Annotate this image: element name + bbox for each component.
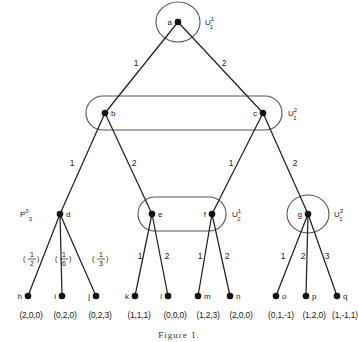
paren-close: ) [37, 255, 39, 263]
chance-probability-1: (12) [23, 251, 39, 267]
tree-node-f [209, 211, 216, 218]
node-label-i: i [54, 292, 56, 301]
edge-label-f-m: 1 [198, 251, 203, 261]
node-label-n: n [236, 292, 240, 301]
node-label-q: q [343, 292, 347, 301]
tree-node-i [59, 293, 66, 300]
edge-label-e-k: 1 [138, 251, 143, 261]
node-label-a: a [168, 18, 173, 27]
edge-label-e-l: 2 [165, 251, 170, 261]
payoff-i: (0,2,0) [53, 310, 77, 320]
chance-probability-2: (16) [55, 251, 71, 267]
tree-edge-c-f [212, 113, 263, 214]
payoff-p: (1,2,0) [302, 310, 326, 320]
figure-caption: Figure 1. [158, 330, 200, 340]
edge-label-b-d: 1 [70, 158, 75, 168]
node-label-l: l [160, 292, 162, 301]
fraction-denominator: 3 [99, 260, 103, 267]
payoff-o: (0,1,-1) [268, 310, 294, 320]
paren-close: ) [106, 255, 108, 263]
edge-label-g-p: 2 [301, 251, 306, 261]
chance-probability-3: (13) [92, 251, 108, 267]
tree-node-o [273, 293, 280, 300]
tree-node-k [132, 293, 139, 300]
tree-node-g [305, 211, 312, 218]
edge-label-c-f: 1 [229, 158, 234, 168]
tree-node-n [227, 293, 234, 300]
tree-edge-c-g [263, 113, 308, 214]
node-label-e: e [158, 210, 163, 219]
tree-edge-a-b [105, 22, 178, 113]
tree-edge-g-p [306, 214, 308, 296]
tree-node-m [195, 293, 202, 300]
payoff-j: (0,2,3) [88, 310, 112, 320]
payoff-h: (2,0,0) [19, 310, 43, 320]
chance-player-label: P03 [20, 208, 33, 222]
edge-label-f-n: 2 [225, 251, 230, 261]
tree-edge-g-q [308, 214, 337, 296]
node-label-d: d [66, 210, 70, 219]
tree-edge-b-e [105, 113, 152, 214]
information-set-label: U31 [334, 208, 344, 222]
paren-open: ( [55, 255, 58, 263]
node-label-b: b [111, 109, 116, 118]
tree-node-e [149, 211, 156, 218]
fraction-numerator: 1 [30, 251, 34, 258]
edge-label-b-e: 2 [132, 158, 137, 168]
tree-edge-b-d [60, 113, 105, 214]
tree-node-a [175, 19, 182, 26]
tree-node-c [260, 110, 267, 117]
payoff-l: (0,0,0) [163, 310, 187, 320]
information-set-label: U21 [288, 107, 298, 121]
tree-edge-a-c [178, 22, 263, 113]
edge-label-a-b: 1 [134, 58, 139, 68]
fraction-denominator: 6 [62, 260, 66, 267]
tree-node-q [334, 293, 341, 300]
edge-label-g-o: 1 [281, 251, 286, 261]
node-label-m: m [204, 292, 211, 301]
fraction-numerator: 1 [99, 251, 103, 258]
node-label-f: f [204, 210, 207, 219]
node-label-j: j [87, 292, 90, 301]
tree-node-b [102, 110, 109, 117]
node-label-p: p [312, 292, 317, 301]
tree-node-l [165, 293, 172, 300]
paren-open: ( [92, 255, 95, 263]
tree-node-d [57, 211, 64, 218]
payoff-n: (2,0,0) [229, 310, 253, 320]
paren-close: ) [69, 255, 71, 263]
payoff-k: (1,1,1) [127, 310, 151, 320]
node-label-g: g [298, 210, 302, 219]
node-label-c: c [253, 109, 257, 118]
payoff-q: (1,-1,1) [332, 310, 358, 320]
information-set-label: U12 [232, 208, 242, 222]
edge-label-a-c: 2 [222, 58, 227, 68]
tree-node-h [25, 293, 32, 300]
node-label-h: h [18, 292, 22, 301]
information-set-label: U11 [205, 16, 215, 30]
tree-node-j [93, 293, 100, 300]
edge-label-c-g: 2 [293, 158, 298, 168]
node-label-k: k [125, 292, 130, 301]
edge-label-g-q: 3 [325, 251, 330, 261]
node-label-o: o [282, 292, 287, 301]
fraction-numerator: 1 [62, 251, 66, 258]
payoff-m: (1,2,3) [196, 310, 220, 320]
fraction-denominator: 2 [30, 260, 34, 267]
paren-open: ( [23, 255, 26, 263]
tree-node-p [303, 293, 310, 300]
